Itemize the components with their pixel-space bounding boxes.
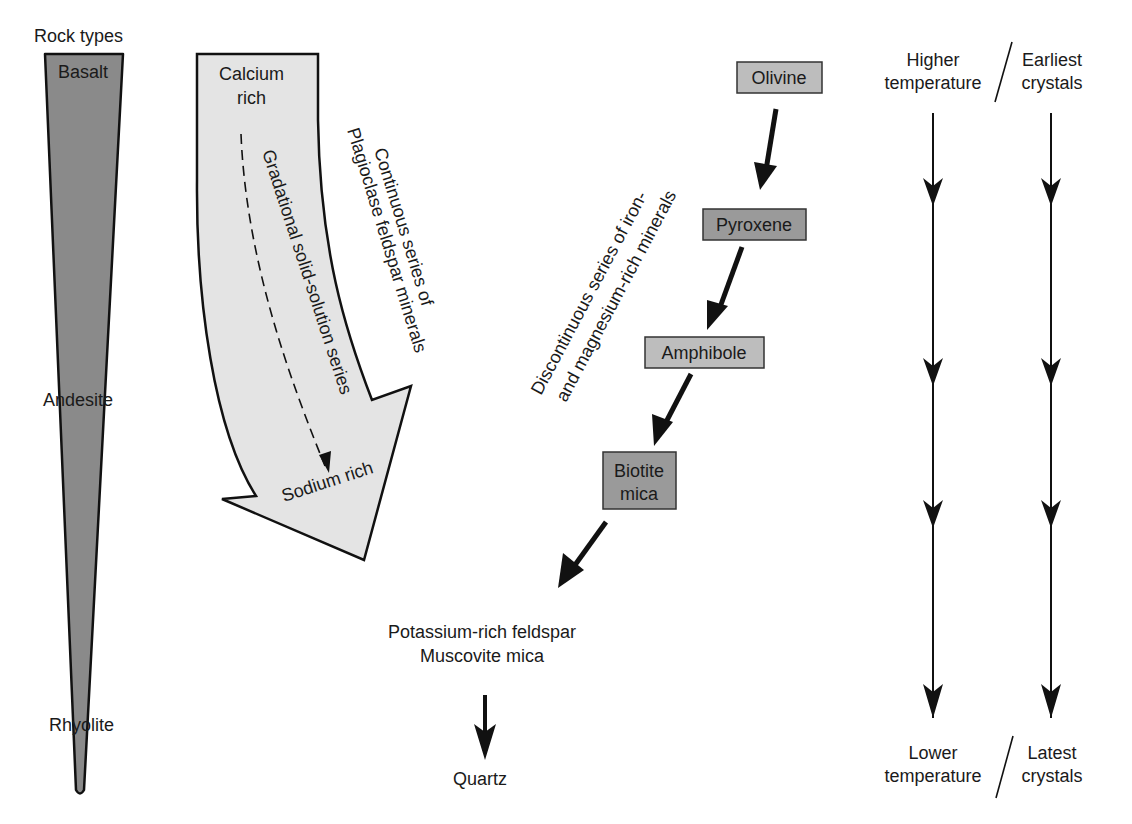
rock-types-title: Rock types <box>34 26 123 46</box>
top-divider-slash <box>995 42 1012 102</box>
continuous-series-arrow: Calcium rich Gradational solid-solution … <box>197 54 438 560</box>
discontinuous-series: Discontinuous series of iron- and magnes… <box>527 62 822 588</box>
rock-rhyolite-label: Rhyolite <box>49 715 114 735</box>
pyroxene-label: Pyroxene <box>716 215 792 235</box>
quartz-label: Quartz <box>453 769 507 789</box>
temperature-scale: Higher temperature Earliest crystals Low… <box>884 42 1082 798</box>
amphibole-label: Amphibole <box>661 343 746 363</box>
calcium-rich-label-line1: Calcium <box>219 64 284 84</box>
arrow-olivine-to-pyroxene-icon <box>754 162 777 190</box>
potassium-feldspar-label: Potassium-rich feldspar <box>388 622 576 642</box>
higher-temperature-label-line2: temperature <box>884 73 981 93</box>
biotite-label-line1: Biotite <box>614 461 664 481</box>
rock-types-taper-shape <box>45 54 123 794</box>
bowens-reaction-series-diagram: Rock types Basalt Andesite Rhyolite Calc… <box>0 0 1132 824</box>
lower-temperature-label-line2: temperature <box>884 766 981 786</box>
latest-crystals-label-line2: crystals <box>1021 766 1082 786</box>
rock-types-column: Rock types Basalt Andesite Rhyolite <box>34 26 123 794</box>
rock-basalt-label: Basalt <box>58 62 108 82</box>
latest-crystals-label-line1: Latest <box>1027 743 1076 763</box>
bottom-divider-slash <box>996 736 1013 798</box>
earliest-crystals-label-line1: Earliest <box>1022 50 1082 70</box>
calcium-rich-label-line2: rich <box>237 88 266 108</box>
arrow-pyroxene-to-amphibole-icon <box>707 300 728 330</box>
biotite-label-line2: mica <box>620 484 659 504</box>
earliest-crystals-label-line2: crystals <box>1021 73 1082 93</box>
final-minerals: Potassium-rich feldspar Muscovite mica Q… <box>388 622 576 789</box>
rock-andesite-label: Andesite <box>43 390 113 410</box>
olivine-label: Olivine <box>751 68 806 88</box>
lower-temperature-label-line1: Lower <box>908 743 957 763</box>
higher-temperature-label-line1: Higher <box>906 50 959 70</box>
muscovite-mica-label: Muscovite mica <box>420 646 545 666</box>
